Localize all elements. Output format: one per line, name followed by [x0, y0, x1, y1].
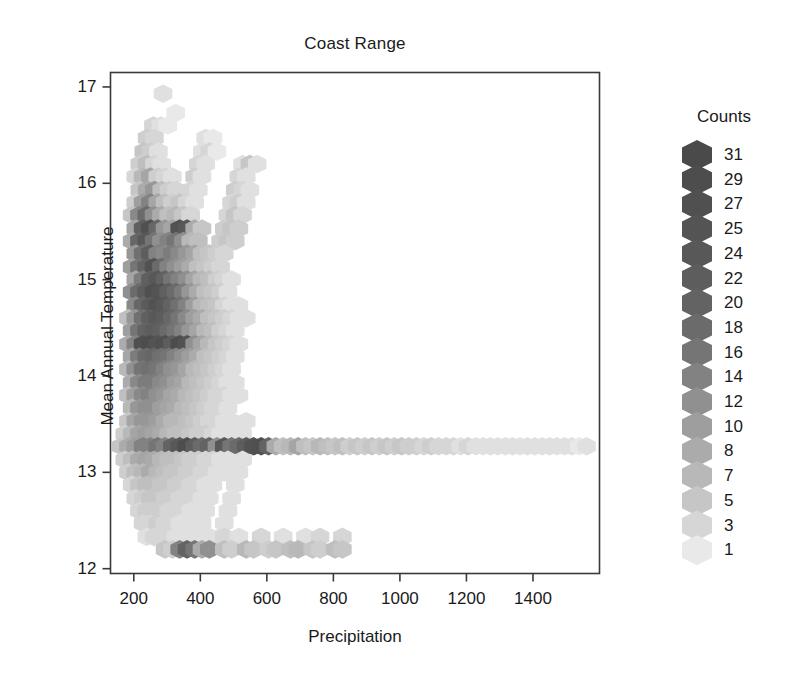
legend-label: 24 — [724, 244, 743, 264]
hexbin-layer — [112, 84, 596, 558]
legend-label: 25 — [724, 219, 743, 239]
legend-swatch — [682, 535, 712, 565]
legend-label: 18 — [724, 318, 743, 338]
x-tick-label: 200 — [120, 589, 148, 609]
x-tick-label: 1200 — [448, 589, 486, 609]
legend-label: 5 — [724, 491, 733, 511]
y-tick-label: 13 — [40, 462, 97, 482]
legend-label: 20 — [724, 293, 743, 313]
legend-label: 29 — [724, 170, 743, 190]
legend-label: 12 — [724, 392, 743, 412]
y-tick-label: 15 — [40, 270, 97, 290]
x-axis-label: Precipitation — [110, 627, 600, 647]
legend-label: 7 — [724, 466, 733, 486]
legend-label: 8 — [724, 441, 733, 461]
legend-label: 31 — [724, 145, 743, 165]
page-title: Coast Range — [110, 34, 600, 54]
legend-label: 27 — [724, 194, 743, 214]
legend-title: Counts — [660, 107, 788, 127]
y-tick-label: 17 — [40, 77, 97, 97]
legend-label: 1 — [724, 540, 733, 560]
legend-label: 16 — [724, 343, 743, 363]
y-tick-label: 14 — [40, 366, 97, 386]
x-tick-label: 600 — [253, 589, 281, 609]
plot-canvas — [0, 0, 793, 686]
legend-label: 14 — [724, 367, 743, 387]
y-tick-label: 12 — [40, 559, 97, 579]
hex-bin — [154, 84, 173, 103]
x-tick-label: 400 — [186, 589, 214, 609]
hexbin-figure: Coast Range Mean Annual Temperature Prec… — [0, 0, 793, 686]
legend-swatch-layer — [682, 140, 712, 565]
x-tick-label: 800 — [319, 589, 347, 609]
x-tick-label: 1400 — [514, 589, 552, 609]
legend-label: 10 — [724, 417, 743, 437]
legend-label: 3 — [724, 516, 733, 536]
legend-label: 22 — [724, 269, 743, 289]
y-tick-label: 16 — [40, 173, 97, 193]
x-tick-label: 1000 — [381, 589, 419, 609]
y-axis-label: Mean Annual Temperature — [98, 86, 118, 566]
